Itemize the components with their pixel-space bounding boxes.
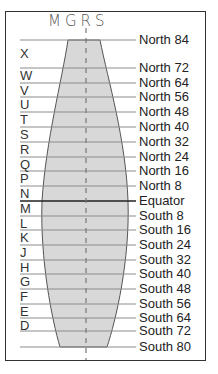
zone-letter: L xyxy=(20,217,27,230)
zone-letter: V xyxy=(20,84,29,97)
latitude-label: South 80 xyxy=(139,340,191,353)
zone-letter: D xyxy=(20,319,29,332)
zone-letter: U xyxy=(20,98,29,111)
latitude-label: North 32 xyxy=(139,135,189,148)
zone-letter: W xyxy=(20,69,32,82)
zone-letter: N xyxy=(20,187,29,200)
zone-letter: Q xyxy=(20,158,30,171)
zone-letter: R xyxy=(20,143,29,156)
latitude-label: South 32 xyxy=(139,253,191,266)
zone-letter: H xyxy=(20,261,29,274)
latitude-label: North 16 xyxy=(139,164,189,177)
latitude-label: South 8 xyxy=(139,209,184,222)
zone-letter: E xyxy=(20,305,29,318)
latitude-label: South 56 xyxy=(139,297,191,310)
latitude-label: North 84 xyxy=(139,33,189,46)
latitude-label: North 64 xyxy=(139,76,189,89)
latitude-label: South 40 xyxy=(139,267,191,280)
handwritten-title: MGRS xyxy=(48,12,109,31)
zone-letter: T xyxy=(20,113,28,126)
zone-letter: X xyxy=(20,47,29,60)
latitude-label: South 24 xyxy=(139,238,191,251)
latitude-label: South 48 xyxy=(139,282,191,295)
zone-letter: F xyxy=(20,290,28,303)
zone-letter: S xyxy=(20,128,29,141)
latitude-label: North 24 xyxy=(139,150,189,163)
latitude-label: North 72 xyxy=(139,61,189,74)
zone-letter: M xyxy=(20,202,31,215)
latitude-label: South 72 xyxy=(139,324,191,337)
zone-letter: K xyxy=(20,231,29,244)
latitude-label: North 56 xyxy=(139,90,189,103)
zone-letter: G xyxy=(20,275,30,288)
earth-projection-shape xyxy=(42,40,128,347)
latitude-label: North 8 xyxy=(139,179,182,192)
latitude-label: North 40 xyxy=(139,120,189,133)
zone-letter: J xyxy=(20,246,27,259)
latitude-label: South 16 xyxy=(139,223,191,236)
latitude-label: North 48 xyxy=(139,105,189,118)
latitude-label: Equator xyxy=(139,194,185,207)
zone-letter: P xyxy=(20,172,29,185)
